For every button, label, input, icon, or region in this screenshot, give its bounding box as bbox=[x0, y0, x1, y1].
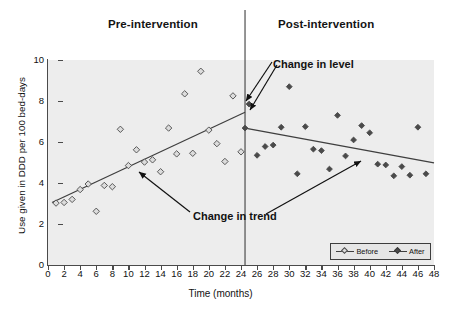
data-point-before bbox=[133, 147, 139, 153]
series-after-markers bbox=[242, 84, 429, 179]
data-point-after bbox=[246, 101, 252, 107]
data-point-before bbox=[198, 68, 204, 74]
legend-label-before: Before bbox=[356, 248, 378, 255]
chart-figure: Pre-intervention Post-intervention 02468… bbox=[0, 0, 459, 318]
series-before-markers bbox=[53, 68, 244, 214]
data-point-before bbox=[190, 150, 196, 156]
chart-legend: Before After bbox=[330, 243, 431, 260]
data-point-after bbox=[359, 123, 365, 129]
data-point-after bbox=[399, 164, 405, 170]
data-point-after bbox=[343, 153, 349, 159]
data-point-before bbox=[117, 126, 123, 132]
data-point-after bbox=[262, 144, 268, 150]
arrow-trend-pre bbox=[139, 172, 190, 212]
data-point-before bbox=[93, 208, 99, 214]
data-point-before bbox=[53, 200, 59, 206]
arrow-level-2 bbox=[250, 65, 277, 110]
data-point-before bbox=[182, 91, 188, 97]
data-point-before bbox=[77, 186, 83, 192]
data-point-before bbox=[230, 93, 236, 99]
legend-label-after: After bbox=[409, 248, 425, 255]
data-point-before bbox=[61, 199, 67, 205]
data-point-before bbox=[149, 157, 155, 163]
data-point-after bbox=[310, 146, 316, 152]
legend-marker-before-icon bbox=[336, 248, 354, 256]
chart-graphics bbox=[0, 0, 459, 318]
data-point-after bbox=[294, 171, 300, 177]
legend-item-before: Before bbox=[336, 248, 378, 256]
data-point-after bbox=[375, 161, 381, 167]
annotation-arrows bbox=[139, 62, 361, 214]
data-point-before bbox=[214, 140, 220, 146]
data-point-after bbox=[407, 172, 413, 178]
data-point-after bbox=[327, 166, 333, 172]
data-point-after bbox=[286, 84, 292, 90]
data-point-after bbox=[415, 124, 421, 130]
trend-endpoint-after bbox=[242, 125, 248, 131]
data-point-after bbox=[270, 142, 276, 148]
annotation-change-in-level: Change in level bbox=[273, 58, 354, 70]
trend-lines-group bbox=[52, 112, 434, 202]
data-point-after bbox=[351, 137, 357, 143]
data-point-after bbox=[278, 124, 284, 130]
data-point-before bbox=[173, 151, 179, 157]
data-point-before bbox=[69, 196, 75, 202]
data-point-before bbox=[165, 125, 171, 131]
data-point-after bbox=[335, 112, 341, 118]
data-point-after bbox=[391, 173, 397, 179]
data-point-before bbox=[109, 183, 115, 189]
data-point-after bbox=[367, 130, 373, 136]
data-point-before bbox=[238, 149, 244, 155]
legend-item-after: After bbox=[389, 248, 425, 256]
data-point-before bbox=[222, 158, 228, 164]
data-point-after bbox=[319, 148, 325, 154]
annotation-change-in-trend: Change in trend bbox=[193, 210, 277, 222]
arrow-trend-post bbox=[266, 161, 361, 214]
data-point-after bbox=[254, 152, 260, 158]
legend-marker-after-icon bbox=[389, 248, 407, 256]
data-point-after bbox=[302, 124, 308, 130]
data-point-before bbox=[101, 182, 107, 188]
data-point-after bbox=[383, 162, 389, 168]
data-point-before bbox=[157, 169, 163, 175]
data-point-after bbox=[423, 171, 429, 177]
